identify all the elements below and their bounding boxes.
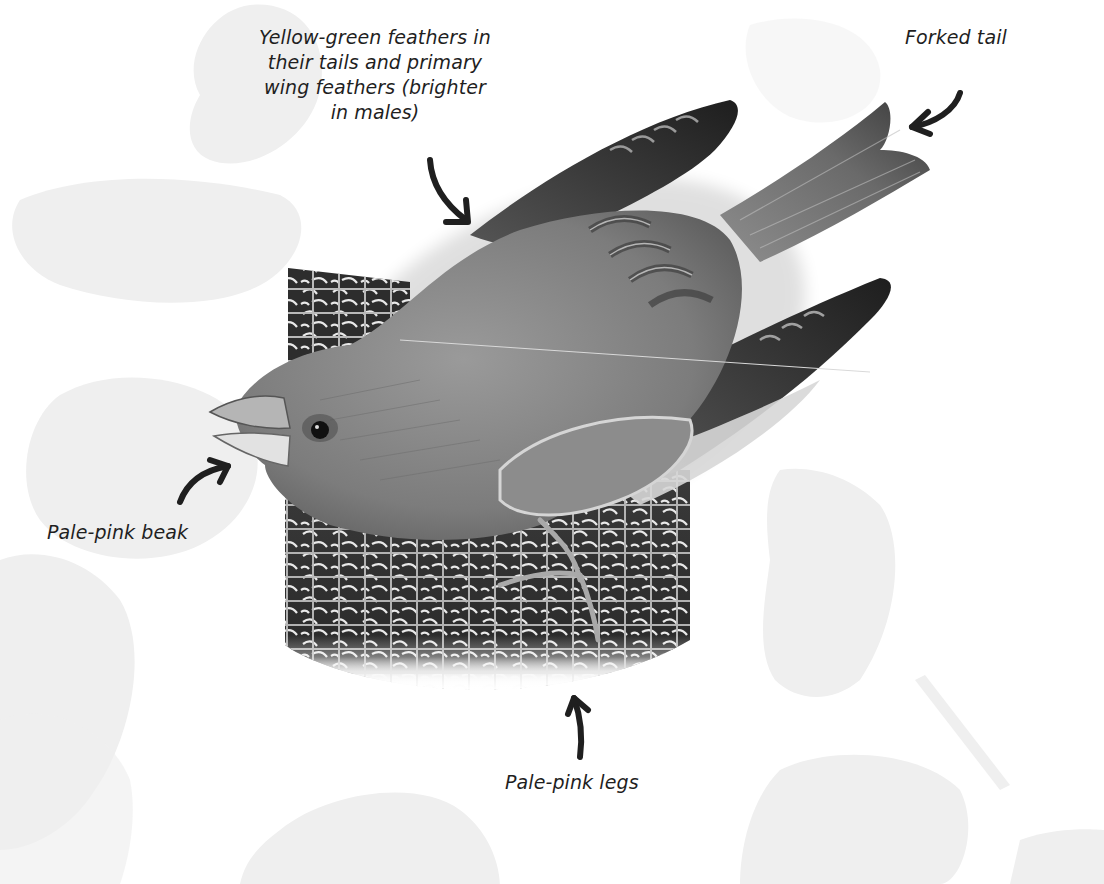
leaf-silhouette-bottom-center [240,793,500,884]
leaf-silhouette-mid-left [12,179,301,303]
callout-wing-line-3: wing feathers (brighter [230,75,520,100]
bird-head [302,414,338,442]
leaf-silhouette-bottom-right [1010,829,1104,884]
bird-illustration: Yellow-green feathers in their tails and… [0,0,1104,884]
curved-arrow-down-right-icon [430,160,468,222]
callout-wing-line-1: Yellow-green feathers in [230,25,520,50]
callout-beak-text: Pale-pink beak [47,520,237,545]
callout-wing-line-4: in males) [230,100,520,125]
callout-legs-text: Pale-pink legs [505,770,675,795]
callout-wing-feathers: Yellow-green feathers in their tails and… [230,25,520,125]
callout-pale-pink-beak: Pale-pink beak [47,520,237,545]
leaf-silhouette-right-mid [763,469,895,697]
bird-eye [311,421,329,439]
callout-pale-pink-legs: Pale-pink legs [505,770,675,795]
callout-tail-text: Forked tail [905,25,1025,50]
callout-forked-tail: Forked tail [905,25,1025,50]
callout-wing-line-2: their tails and primary [230,50,520,75]
curved-arrow-up-icon [568,698,588,757]
leaf-silhouette-top-right [746,19,881,123]
curved-arrow-left-icon [912,93,960,134]
forked-tail [720,102,930,262]
leaf-silhouette-right-lower [740,755,968,884]
